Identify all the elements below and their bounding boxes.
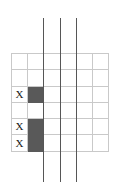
grid-cell-r6-c5[interactable] xyxy=(76,135,92,151)
vertical-line-3 xyxy=(76,18,77,182)
grid-cell-r6-c6[interactable] xyxy=(92,135,108,151)
grid-cell-r3-c6[interactable] xyxy=(92,86,108,102)
grid-cell-r3-c4[interactable] xyxy=(60,86,76,102)
grid-cell-r5-c3[interactable] xyxy=(44,119,60,135)
grid-cell-r5-c5[interactable] xyxy=(76,119,92,135)
grid-cell-r4-c5[interactable] xyxy=(76,102,92,118)
grid-cell-r6-c3[interactable] xyxy=(44,135,60,151)
grid-cell-r6-c2[interactable] xyxy=(28,135,44,151)
grid-cell-r5-c4[interactable] xyxy=(60,119,76,135)
grid-cell-r2-c3[interactable] xyxy=(44,70,60,86)
grid-cell-r2-c4[interactable] xyxy=(60,70,76,86)
grid-cell-r5-c2[interactable] xyxy=(28,119,44,135)
grid-cell-r2-c1[interactable] xyxy=(12,70,28,86)
grid-cell-r5-c1[interactable]: X xyxy=(12,119,28,135)
grid-cell-r2-c5[interactable] xyxy=(76,70,92,86)
grid-cell-r4-c6[interactable] xyxy=(92,102,108,118)
grid-cell-r1-c3[interactable] xyxy=(44,54,60,70)
grid-cell-r3-c2[interactable] xyxy=(28,86,44,102)
grid-cell-r5-c6[interactable] xyxy=(92,119,108,135)
vertical-line-1 xyxy=(43,18,44,182)
grid-cell-r1-c6[interactable] xyxy=(92,54,108,70)
grid-cell-r2-c6[interactable] xyxy=(92,70,108,86)
grid-cell-r3-c3[interactable] xyxy=(44,86,60,102)
grid-cell-r4-c4[interactable] xyxy=(60,102,76,118)
diagram-canvas: XXX xyxy=(0,0,122,191)
grid-cell-r6-c1[interactable]: X xyxy=(12,135,28,151)
grid-cell-r4-c2[interactable] xyxy=(28,102,44,118)
vertical-line-2 xyxy=(60,18,61,182)
grid-cell-r2-c2[interactable] xyxy=(28,70,44,86)
grid-cell-r3-c1[interactable]: X xyxy=(12,86,28,102)
grid-cell-r1-c2[interactable] xyxy=(28,54,44,70)
grid-cell-r1-c1[interactable] xyxy=(12,54,28,70)
grid-cell-r1-c5[interactable] xyxy=(76,54,92,70)
grid-cell-r4-c3[interactable] xyxy=(44,102,60,118)
grid-cell-r4-c1[interactable] xyxy=(12,102,28,118)
grid-cell-r3-c5[interactable] xyxy=(76,86,92,102)
grid-cell-r1-c4[interactable] xyxy=(60,54,76,70)
grid-cell-r6-c4[interactable] xyxy=(60,135,76,151)
